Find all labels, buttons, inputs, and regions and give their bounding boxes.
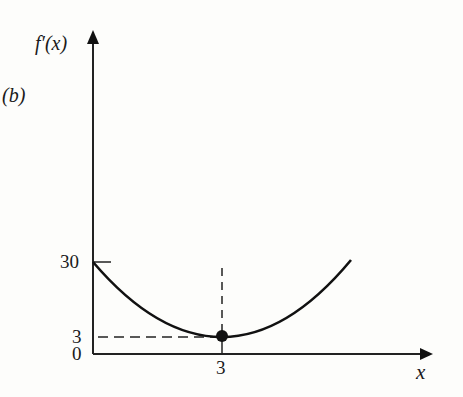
- y-axis-arrow-icon: [87, 30, 99, 44]
- x-axis-label: x: [416, 360, 425, 385]
- y-tick-label-30: 30: [60, 251, 79, 273]
- y-axis-label: f′(x): [35, 32, 67, 55]
- minimum-point: [216, 330, 228, 342]
- x-axis-arrow-icon: [420, 348, 433, 360]
- origin-label: 0: [72, 343, 82, 365]
- x-tick-label-3: 3: [216, 357, 226, 379]
- chart-canvas: [0, 0, 463, 397]
- panel-label: (b): [2, 84, 25, 107]
